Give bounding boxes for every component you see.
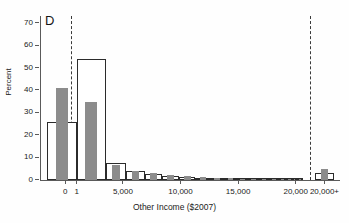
bar-filled: [272, 179, 276, 180]
bar-filled: [184, 176, 191, 180]
bars-container: [40, 17, 340, 180]
x-axis-tick-label: 5,000: [113, 187, 133, 196]
x-axis-tick: [76, 180, 77, 184]
bar-filled: [85, 102, 97, 180]
bar-filled: [251, 179, 255, 180]
y-axis-tick-label: 70: [0, 19, 39, 27]
y-axis-tick-label: 30: [0, 108, 39, 116]
bar-filled: [228, 178, 233, 180]
x-axis-tick: [122, 180, 123, 184]
y-axis-tick-label: 40: [0, 86, 39, 94]
y-axis-tick-label: 10: [0, 153, 39, 161]
bar-filled: [112, 165, 121, 180]
x-axis-tick: [180, 180, 181, 184]
x-axis-tick-label: 20,000: [283, 187, 307, 196]
bar-filled: [240, 179, 245, 180]
bar-filled: [288, 179, 290, 180]
bar-filled: [167, 175, 174, 180]
x-axis-tick-label: 1: [75, 187, 79, 196]
x-axis-tick: [295, 180, 296, 184]
y-axis-tick-label: 0: [0, 176, 39, 184]
bars-layer: [40, 16, 340, 180]
bar-filled: [56, 88, 69, 180]
bar-filled: [281, 179, 284, 180]
bar-filled: [200, 177, 206, 180]
x-axis-tick-label: 0: [63, 187, 67, 196]
x-axis-tick-label: 10,000: [168, 187, 192, 196]
x-axis-tick: [238, 180, 239, 184]
y-axis-tick-label: 50: [0, 64, 39, 72]
bar-filled: [262, 179, 266, 180]
bar-filled: [214, 178, 220, 180]
x-axis-tick: [324, 180, 325, 184]
chart-figure: D Percent 010203040506070 015,00010,0001…: [0, 0, 349, 223]
bar-filled: [132, 171, 140, 180]
bar-filled: [150, 173, 157, 180]
bar-filled: [321, 169, 329, 180]
x-axis-tick-label: 20,000+: [310, 187, 339, 196]
y-axis-tick-label: 60: [0, 41, 39, 49]
x-axis-tick: [65, 180, 66, 184]
x-axis-tick-label: 15,000: [226, 187, 250, 196]
bar-filled: [299, 179, 301, 180]
y-axis-tick-label: 20: [0, 131, 39, 139]
x-axis-title: Other Income ($2007): [0, 203, 349, 212]
